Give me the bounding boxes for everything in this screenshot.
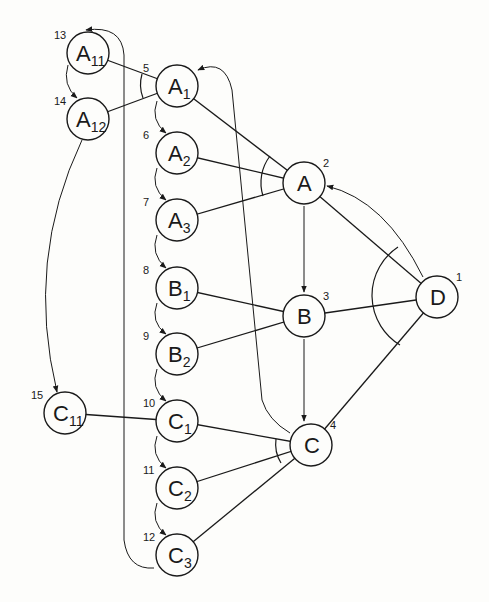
and-or-graph: D1A2B3C4A15A26A37B18B29C110C211C312A1113… [0, 0, 489, 602]
arrow-D-A [327, 186, 423, 277]
node-C2: C211 [143, 464, 198, 509]
node-order-number: 6 [143, 129, 149, 141]
arrow-A1-A2 [155, 101, 166, 133]
node-order-number: 5 [143, 62, 149, 74]
node-label: C [304, 433, 320, 458]
arrow-C1-C2 [155, 436, 166, 468]
arrow-A12-C11 [45, 140, 82, 392]
node-label: D [430, 285, 446, 310]
node-label: A [297, 171, 312, 196]
node-order-number: 2 [323, 157, 329, 169]
tree-edges [65, 53, 437, 555]
node-B1: B18 [143, 264, 198, 309]
node-A: A2 [283, 157, 329, 204]
node-label: B [297, 304, 312, 329]
node-A3: A37 [143, 196, 198, 241]
and-arc-A1 [141, 74, 143, 98]
node-C3: C312 [143, 531, 198, 576]
node-subscript: 12 [91, 119, 107, 135]
node-order-number: 13 [54, 29, 66, 41]
node-C: C4 [290, 419, 336, 466]
edge-D-A [304, 183, 437, 297]
arrow-C2-C3 [155, 503, 166, 535]
node-A11: A1113 [54, 29, 109, 74]
arrow-B1-B2 [155, 303, 166, 334]
node-B2: B29 [143, 330, 198, 375]
arrow-C-A1 [198, 67, 290, 433]
node-subscript: 11 [91, 53, 106, 69]
node-order-number: 14 [54, 95, 66, 107]
node-subscript: 1 [183, 288, 191, 304]
and-arc-A [261, 156, 270, 196]
node-subscript: 2 [184, 488, 192, 504]
node-order-number: 7 [143, 196, 149, 208]
arrow-B2-C1 [155, 369, 166, 401]
node-subscript: 3 [183, 220, 191, 236]
node-subscript: 3 [184, 555, 192, 571]
node-order-number: 15 [31, 389, 43, 401]
node-B: B3 [283, 290, 329, 337]
node-order-number: 4 [330, 419, 336, 431]
node-order-number: 3 [323, 290, 329, 302]
and-arc-C [276, 439, 281, 463]
node-subscript: 1 [184, 421, 192, 437]
arrow-A3-B1 [155, 235, 166, 268]
edge-C-C3 [177, 445, 311, 555]
node-subscript: 2 [183, 153, 191, 169]
node-C11: C1115 [31, 389, 86, 434]
node-order-number: 11 [143, 464, 154, 476]
node-order-number: 9 [143, 330, 149, 342]
node-subscript: 1 [183, 86, 191, 102]
node-A2: A26 [143, 129, 198, 174]
node-subscript: 2 [183, 354, 191, 370]
node-A1: A15 [143, 62, 198, 107]
arrow-A2-A3 [155, 168, 166, 200]
node-D: D1 [416, 271, 462, 318]
node-order-number: 1 [456, 271, 462, 283]
node-order-number: 8 [143, 264, 149, 276]
node-subscript: 11 [69, 413, 84, 429]
node-order-number: 12 [143, 531, 155, 543]
node-A12: A1214 [54, 95, 109, 140]
node-order-number: 10 [143, 397, 155, 409]
